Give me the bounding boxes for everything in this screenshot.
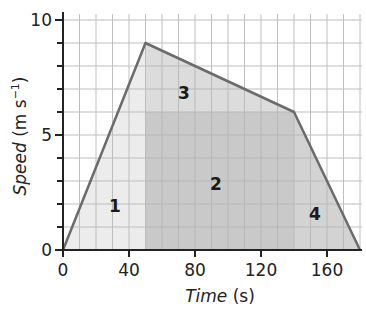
y-axis-title: Speed (m s−1) [9, 76, 30, 195]
x-tick-label-0: 0 [58, 260, 69, 280]
y-axis-title-quantity: Speed [10, 142, 30, 196]
x-tick-label-40: 40 [118, 260, 140, 280]
x-axis-title: Time (s) [185, 286, 255, 306]
y-axis-title-exponent: −1 [9, 83, 22, 99]
y-axis-title-unit: (m s [10, 99, 30, 142]
x-tick-label-120: 120 [245, 260, 277, 280]
y-tick-label-5: 5 [41, 125, 52, 145]
region-2-label: 2 [210, 174, 222, 194]
x-axis-title-quantity: Time [185, 286, 227, 306]
region-3-label: 3 [178, 83, 190, 103]
y-axis-title-close: ) [10, 76, 30, 83]
y-tick-label-0: 0 [41, 240, 52, 260]
x-tick-label-160: 160 [311, 260, 343, 280]
x-tick-label-80: 80 [184, 260, 206, 280]
x-axis-title-unit: (s) [227, 286, 255, 306]
speed-time-chart: 10 5 0 0 40 80 120 160 Time (s) Speed (m… [0, 0, 366, 315]
region-4-label: 4 [309, 204, 321, 224]
y-tick-label-10: 10 [30, 10, 52, 30]
region-1-label: 1 [109, 196, 121, 216]
